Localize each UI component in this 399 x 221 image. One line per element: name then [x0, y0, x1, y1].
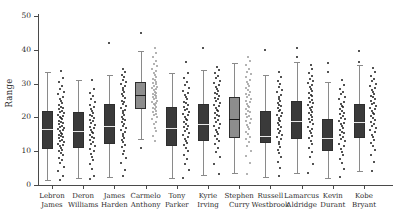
strip-point [374, 71, 376, 73]
strip-point [374, 87, 376, 89]
strip-point [370, 100, 372, 102]
strip-point [373, 113, 375, 115]
strip-point [370, 142, 372, 144]
strip-point [371, 103, 373, 105]
strip-point [372, 145, 374, 147]
strip-point [374, 98, 376, 100]
strip-point [369, 85, 371, 87]
strip-point [374, 131, 376, 133]
strip-point [375, 105, 377, 107]
strip-point [373, 102, 375, 104]
strip-point [369, 107, 371, 109]
strip-point [374, 149, 376, 151]
strip-point [371, 170, 373, 172]
strip-point [373, 93, 375, 95]
box [354, 104, 365, 138]
strip-point [374, 119, 376, 121]
boxplot-figure: Range 01020304050 LebronJamesDeronWillia… [0, 0, 399, 221]
strip-point [373, 139, 375, 141]
strip-point [374, 108, 376, 110]
median-line [354, 122, 365, 123]
whisker-cap-upper [357, 65, 363, 66]
strip-point [372, 67, 374, 69]
outlier-point [358, 61, 360, 63]
strip-point [373, 78, 375, 80]
strip-point [370, 121, 372, 123]
strip-point [370, 154, 372, 156]
strip-point [370, 75, 372, 77]
whisker-cap-lower [357, 171, 363, 172]
strip-point [373, 123, 375, 125]
strip-point [371, 125, 373, 127]
strip-point [372, 136, 374, 138]
strip-point [369, 129, 371, 131]
strip-point [375, 127, 377, 129]
box-group [0, 0, 399, 221]
strip-point [375, 83, 377, 85]
strip-point [373, 161, 375, 163]
outlier-point [358, 50, 360, 52]
strip-point [371, 80, 373, 82]
